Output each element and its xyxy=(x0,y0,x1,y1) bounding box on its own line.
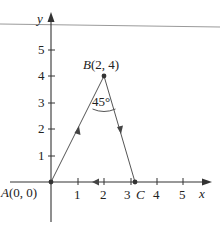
y-axis-arrow-icon xyxy=(48,12,55,22)
triangle-path xyxy=(51,76,135,182)
y-axis: y 1 2 3 4 5 xyxy=(35,11,55,222)
x-tick-label: 5 xyxy=(179,187,186,202)
arrow-c-to-a-icon xyxy=(92,179,99,186)
x-tick-label: 4 xyxy=(153,187,160,202)
y-tick-label: 3 xyxy=(38,95,45,110)
point-a xyxy=(49,180,54,185)
point-b xyxy=(102,74,107,79)
x-axis: x 1 2 3 4 5 xyxy=(10,178,212,202)
point-c-label: C xyxy=(136,187,145,202)
arrow-b-to-c-icon xyxy=(117,126,123,135)
angle-arc xyxy=(93,109,116,112)
x-axis-arrow-icon xyxy=(202,179,212,186)
x-tick-label: 2 xyxy=(100,187,107,202)
x-tick-label: 3 xyxy=(124,187,131,202)
point-b-label: B(2, 4) xyxy=(83,57,119,72)
x-tick-label: 1 xyxy=(74,187,81,202)
y-tick-label: 1 xyxy=(38,148,45,163)
top-rule-line xyxy=(0,24,220,27)
y-tick-label: 4 xyxy=(38,68,45,83)
y-tick-label: 2 xyxy=(38,121,45,136)
x-axis-label: x xyxy=(198,186,205,201)
y-axis-label: y xyxy=(35,11,43,26)
point-a-label: AA(0, 0)(0, 0) xyxy=(0,185,37,200)
angle-label: 45° xyxy=(92,94,110,109)
coordinate-diagram: y 1 2 3 4 5 x 1 2 3 4 xyxy=(0,0,220,227)
point-c xyxy=(133,180,138,185)
y-tick-label: 5 xyxy=(38,42,45,57)
